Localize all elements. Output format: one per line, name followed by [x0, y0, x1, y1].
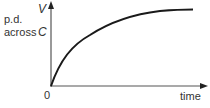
- y-label-pd: p.d.: [4, 13, 22, 25]
- y-label-capacitor-symbol: C: [38, 26, 47, 38]
- x-axis-arrow-icon: [200, 83, 208, 89]
- y-axis-arrow-icon: [48, 1, 54, 9]
- charging-graph: [0, 0, 210, 108]
- y-max-label: V: [38, 3, 46, 15]
- y-label-across: across: [4, 26, 36, 38]
- origin-label: 0: [44, 89, 50, 101]
- x-axis-label: time: [180, 90, 201, 102]
- charging-curve: [51, 10, 193, 87]
